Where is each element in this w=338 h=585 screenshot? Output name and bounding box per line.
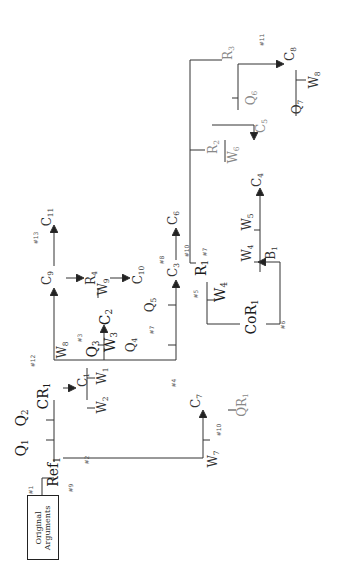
node-label: R: [206, 145, 220, 154]
node-subscript: 4: [246, 244, 255, 249]
node-c11: C11: [41, 208, 54, 227]
node-subscript: 5: [246, 213, 255, 218]
node-label: Q: [84, 346, 100, 357]
node-label: R: [193, 265, 209, 276]
node-label: Ref: [45, 463, 61, 487]
step-tag: #4: [171, 379, 177, 388]
node-label: B: [264, 251, 278, 260]
node-label: W: [55, 346, 69, 358]
node-c9: C9: [41, 271, 54, 285]
node-c8: C8: [284, 47, 297, 61]
node-subscript: 7: [296, 100, 305, 105]
node-subscript: 8: [289, 47, 298, 52]
node-q5: Q5: [144, 298, 157, 313]
node-cor1: CoR1: [244, 299, 260, 334]
node-c6: C6: [167, 211, 180, 225]
node-c3: C3: [167, 263, 180, 277]
node-w3: W3: [103, 332, 119, 352]
step-tag: #10: [184, 245, 190, 258]
node-label: W: [212, 288, 228, 302]
node-subscript: 6: [172, 211, 181, 216]
node-subscript: 11: [46, 208, 55, 217]
node-q6: Q6: [245, 91, 258, 106]
node-w4a: W4: [213, 282, 229, 302]
node-subscript: 4: [130, 338, 139, 343]
node-w7: W7: [207, 450, 220, 467]
node-w2: W2: [96, 396, 109, 413]
node-label: C: [189, 399, 203, 408]
step-tag: #8: [159, 256, 165, 265]
node-w4b: W4: [241, 244, 254, 261]
node-subscript: 4: [219, 282, 229, 288]
node-w8: W8: [56, 341, 69, 358]
node-subscript: 2: [104, 309, 114, 315]
node-label: W: [96, 283, 110, 295]
step-tag: #11: [259, 34, 265, 47]
node-c2: C2: [98, 309, 114, 325]
node-subscript: 5: [260, 119, 269, 124]
node-subscript: 5: [149, 298, 158, 303]
node-label: Q: [13, 445, 29, 456]
node-ref1: Ref1: [46, 457, 62, 487]
node-label: C: [76, 378, 90, 387]
node-label: Q: [124, 342, 138, 352]
node-label: C: [250, 178, 264, 187]
step-tag: #5: [193, 290, 199, 299]
original-arguments-box: Original Arguments: [27, 495, 59, 560]
step-tag: #12: [30, 355, 36, 368]
step-tag: #10: [216, 424, 222, 437]
node-r3: R3: [222, 46, 235, 60]
node-c10: C10: [132, 266, 145, 285]
node-subscript: 6: [232, 146, 241, 151]
node-label: W: [226, 151, 240, 163]
box-line-2: Arguments: [43, 496, 52, 559]
node-label: W: [102, 338, 118, 352]
node-subscript: 1: [82, 373, 91, 378]
node-w8b: W8: [308, 71, 321, 88]
node-w5: W5: [241, 213, 254, 230]
node-c5: C5: [255, 119, 268, 133]
node-r1: R1: [194, 260, 210, 276]
node-c4: C4: [251, 173, 264, 187]
node-subscript: 2: [101, 396, 110, 401]
node-subscript: 8: [61, 341, 70, 346]
node-subscript: 1: [241, 393, 250, 398]
node-label: Q: [13, 415, 29, 426]
node-subscript: 1: [52, 457, 62, 463]
step-tag: #2: [84, 456, 90, 465]
step-tag: #3: [77, 334, 83, 343]
node-label: QR: [235, 398, 249, 417]
node-q1: Q1: [14, 439, 30, 456]
step-tag: #13: [33, 232, 39, 245]
node-c1: C1: [77, 373, 90, 387]
flow-diagram: Original Arguments Ref1Q1Q2CR1C1W1W2C7W7…: [0, 0, 338, 585]
node-subscript: 1: [250, 299, 260, 305]
node-label: Q: [244, 95, 258, 105]
node-q3: Q3: [85, 340, 101, 357]
step-tag: #1: [28, 486, 34, 495]
node-label: Q: [290, 104, 304, 114]
node-subscript: 7: [195, 394, 204, 399]
node-b1: B1: [265, 246, 278, 260]
node-subscript: 1: [101, 367, 110, 372]
node-label: C: [97, 314, 113, 325]
node-subscript: 10: [137, 266, 146, 275]
node-subscript: 9: [102, 278, 111, 283]
node-subscript: 7: [212, 450, 221, 455]
node-subscript: 1: [200, 260, 210, 266]
node-cr1: CR1: [36, 383, 52, 410]
node-w6: W6: [227, 146, 240, 163]
node-label: W: [95, 372, 109, 384]
node-subscript: 1: [20, 439, 30, 445]
node-label: C: [166, 216, 180, 225]
node-label: C: [166, 268, 180, 277]
node-subscript: 1: [42, 383, 52, 389]
node-label: C: [40, 217, 54, 226]
node-w1: W1: [96, 367, 109, 384]
node-label: R: [221, 51, 235, 60]
node-subscript: 4: [256, 173, 265, 178]
node-subscript: 8: [313, 71, 322, 76]
node-label: W: [206, 455, 220, 467]
node-subscript: 9: [46, 271, 55, 276]
node-subscript: 1: [270, 246, 279, 251]
